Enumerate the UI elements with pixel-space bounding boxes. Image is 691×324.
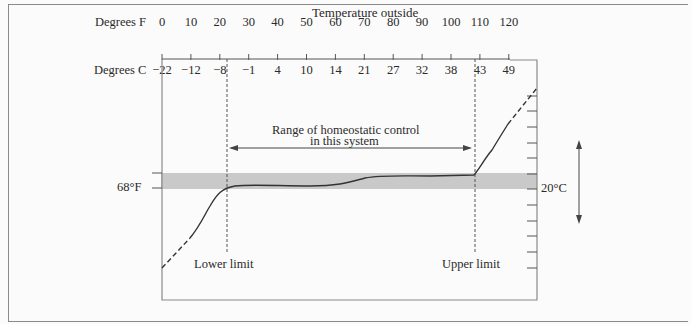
chart-graphics xyxy=(0,0,691,324)
range-label-line2: in this system xyxy=(310,135,379,148)
lower-limit-label: Lower limit xyxy=(194,258,253,271)
right-setpoint-label: 20°C xyxy=(541,182,567,195)
upper-limit-label: Upper limit xyxy=(442,258,500,271)
left-setpoint-label: 68°F xyxy=(117,181,141,194)
setpoint-band xyxy=(161,173,537,189)
curve-extrapolated-high xyxy=(508,88,537,124)
curve-extrapolated-low xyxy=(162,238,190,268)
